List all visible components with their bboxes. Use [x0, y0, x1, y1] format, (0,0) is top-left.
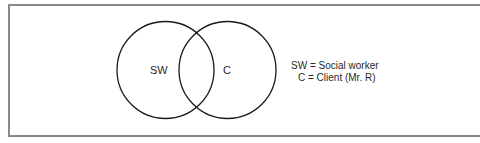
legend-item-sw: SW = Social worker: [291, 60, 379, 72]
venn-diagram: [0, 0, 480, 143]
legend-item-c: C = Client (Mr. R): [298, 72, 376, 84]
set-label-sw: SW: [150, 64, 168, 76]
diagram-canvas: SW C SW = Social worker C = Client (Mr. …: [0, 0, 480, 143]
set-label-c: C: [223, 64, 231, 76]
